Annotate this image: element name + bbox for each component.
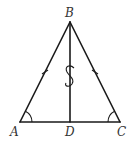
label-d: D [64, 125, 75, 139]
angle-arc-c [108, 111, 115, 122]
label-a: A [9, 125, 19, 139]
label-b: B [64, 6, 74, 20]
label-c: C [117, 125, 126, 139]
angle-arc-a [25, 111, 32, 122]
triangle-diagram: B A D C [0, 0, 138, 142]
